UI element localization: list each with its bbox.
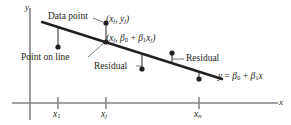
line-equation-label: y = β0 + β1x	[218, 72, 263, 82]
regression-line	[42, 22, 222, 79]
x-tick-label-j: xj	[101, 110, 107, 120]
point-mid	[139, 66, 144, 71]
point-upper	[169, 50, 174, 55]
leader-data-point	[93, 18, 103, 22]
residual-label-left: Residual	[94, 62, 127, 72]
x-tick-label-1: x1	[53, 110, 61, 120]
paren-close: )	[152, 33, 155, 43]
x-tick-label-n: xn	[194, 110, 202, 120]
data-points	[55, 20, 201, 81]
x-axis-label: x	[279, 98, 283, 107]
paren-close: )	[126, 14, 129, 24]
plus-sign: +	[128, 33, 138, 43]
eq-equals: =	[222, 71, 232, 81]
tick-subscript: 1	[57, 112, 60, 119]
point-xn	[196, 76, 201, 81]
y-axis-label: y	[25, 3, 29, 12]
residual-stems	[58, 23, 199, 79]
tick-subscript: n	[198, 112, 201, 119]
residual-label-right: Residual	[186, 54, 219, 64]
eq-plus: +	[240, 71, 250, 81]
point-x1	[55, 44, 60, 49]
tick-subscript: j	[105, 112, 107, 119]
point-on-line-label: Point on line	[21, 53, 70, 63]
data-point-label: Data point	[48, 12, 88, 22]
eq-x: x	[259, 71, 263, 81]
diagram-canvas	[0, 0, 291, 125]
fitted-point-coordinates: (xj, β0 + β1xj)	[106, 34, 155, 44]
observed-point-coordinates: (xj, yj)	[106, 15, 129, 25]
regression-residual-diagram: y x Data point Point on line Residual Re…	[0, 0, 291, 125]
leader-point-on-line	[88, 43, 104, 57]
